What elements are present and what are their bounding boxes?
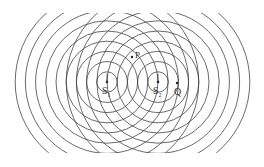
point-p-label: P	[135, 51, 140, 60]
source-s1-label: S1	[102, 86, 111, 98]
interference-diagram: S1 S2 P Q	[0, 0, 264, 167]
point-dot	[176, 82, 178, 84]
source-s2-label: S2	[153, 86, 162, 98]
point-q-label: Q	[174, 87, 181, 97]
source-dot	[157, 81, 160, 84]
wavefront-rings	[0, 0, 264, 167]
point-dot	[131, 56, 133, 58]
